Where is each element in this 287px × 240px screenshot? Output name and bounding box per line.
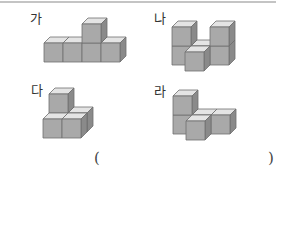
unit-cube xyxy=(211,109,236,134)
answer-close-paren: ) xyxy=(268,151,274,166)
answer-blank[interactable] xyxy=(105,151,265,169)
unit-cube xyxy=(186,115,211,140)
cube-front-face xyxy=(186,121,205,140)
unit-cube xyxy=(173,90,198,115)
answer-open-paren: ( xyxy=(94,151,100,166)
cube-front-face xyxy=(173,96,192,115)
cube-front-face xyxy=(211,115,230,134)
